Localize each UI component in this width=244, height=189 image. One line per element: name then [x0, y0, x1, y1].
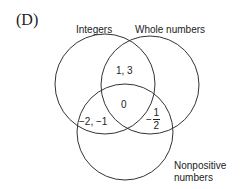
region-integers-nonpositive: −2, −1: [79, 117, 107, 127]
region-integers-whole: 1, 3: [116, 66, 133, 76]
choice-label: (D): [16, 12, 38, 28]
fraction-denominator: 2: [154, 121, 160, 131]
fraction-sign: −: [146, 114, 152, 125]
nonpositive-label-line1: Nonpositive: [174, 161, 226, 171]
fraction-numerator: 1: [154, 108, 160, 118]
nonpositive-label-line2: numbers: [174, 173, 213, 183]
region-all-three: 0: [121, 100, 127, 110]
region-whole-nonpositive: − 1 2: [146, 108, 160, 131]
integers-label: Integers: [76, 25, 112, 35]
whole-numbers-label: Whole numbers: [135, 25, 205, 35]
